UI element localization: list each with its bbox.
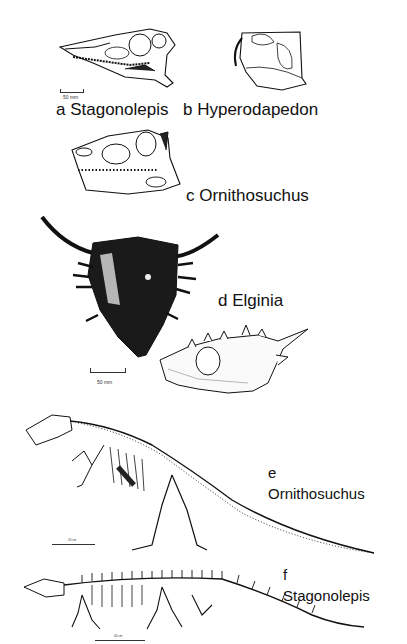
- panel-e-name: Ornithosuchus: [268, 485, 365, 502]
- ornithosuchus-skeleton-drawing: [22, 405, 377, 555]
- scale-bar-a: [60, 89, 84, 93]
- panel-c-label: c Ornithosuchus: [186, 186, 309, 206]
- panel-a-label: a Stagonolepis: [56, 100, 168, 120]
- scale-bar-f-label: 40 cm: [114, 634, 122, 638]
- ornithosuchus-skull-drawing: [68, 128, 188, 200]
- scale-bar-d: [90, 368, 126, 373]
- scale-bar-e-label: 20 cm: [68, 538, 76, 542]
- panel-e-letter: e: [268, 464, 276, 481]
- panel-f-letter: f: [283, 566, 287, 583]
- panel-d-label: d Elginia: [218, 291, 283, 311]
- elginia-skull-lateral-drawing: [158, 325, 313, 400]
- scale-bar-f: [95, 640, 145, 641]
- scale-bar-d-label: 50 mm: [97, 379, 112, 385]
- stagonolepis-skull-drawing: [55, 25, 185, 90]
- scale-bar-e: [52, 544, 95, 545]
- hyperodapedon-skull-drawing: [222, 28, 312, 93]
- panel-f-name: Stagonolepis: [283, 587, 370, 604]
- panel-b-label: b Hyperodapedon: [183, 100, 318, 120]
